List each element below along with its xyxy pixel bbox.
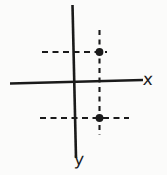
lower-point-marker xyxy=(96,114,104,122)
upper-point-marker xyxy=(96,48,104,56)
x-axis-line xyxy=(10,80,143,84)
coordinate-diagram: x y xyxy=(0,0,167,175)
x-axis-label: x xyxy=(142,71,153,88)
y-axis-label: y xyxy=(74,151,85,168)
